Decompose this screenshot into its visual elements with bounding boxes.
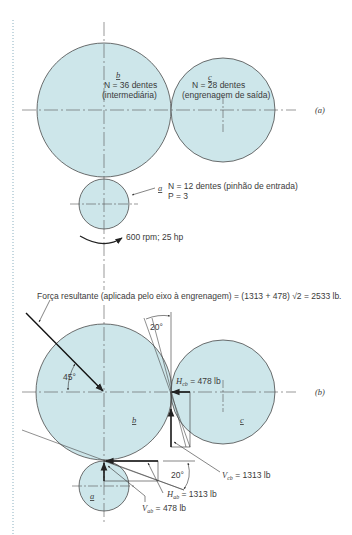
angle-45-label: 45° xyxy=(63,372,76,382)
part-a: b N = 36 dentes (intermediária) c N = 28… xyxy=(22,22,325,290)
gear-b-role: (intermediária) xyxy=(102,90,157,100)
gear-c-letter-b: c xyxy=(240,415,244,425)
part-b: Força resultante (aplicada pelo eixo à e… xyxy=(22,291,342,522)
gear-a-letter: a xyxy=(158,183,162,193)
angle-arc-20-top xyxy=(146,315,170,319)
V-cb-leader xyxy=(174,442,220,472)
gear-b-letter-b: b xyxy=(132,415,136,425)
gear-a-letter-b: a xyxy=(90,491,94,501)
gear-c-teeth: N = 28 dentes xyxy=(192,80,245,90)
gear-a-pitch: P = 3 xyxy=(168,191,188,201)
rotation-arrow-icon xyxy=(80,236,122,244)
resultant-force-label: Força resultante (aplicada pelo eixo à e… xyxy=(37,291,342,301)
resultant-leader xyxy=(39,300,50,322)
gear-b-letter: b xyxy=(116,70,120,80)
angle-20-bottom: 20° xyxy=(171,470,184,480)
H-cb-label: Hcb = 478 lb xyxy=(175,376,221,387)
part-b-tag: (b) xyxy=(315,387,325,397)
V-ab-label: Vab = 478 lb xyxy=(142,503,186,514)
angle-arc-20-bottom xyxy=(184,463,189,489)
input-speed-power: 600 rpm; 25 hp xyxy=(126,232,183,242)
gear-a-leader xyxy=(132,188,155,195)
gear-a-teeth: N = 12 dentes (pinhão de entrada) xyxy=(168,181,298,191)
part-a-tag: (a) xyxy=(315,105,325,115)
angle-20-top: 20° xyxy=(150,322,163,332)
gear-b-teeth: N = 36 dentes xyxy=(104,80,157,90)
H-ab-label: Hab = 1313 lb xyxy=(166,489,217,500)
gear-c-role: (engrenagem de saída) xyxy=(182,90,271,100)
gear-train-diagram: b N = 36 dentes (intermediária) c N = 28… xyxy=(0,0,352,535)
V-cb-label: Vcb = 1313 lb xyxy=(222,470,271,481)
